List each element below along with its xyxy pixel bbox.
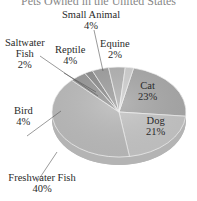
label-cat-pct: 23% <box>138 91 157 102</box>
label-saltwater-fish: Saltwater Fish 2% <box>5 37 45 70</box>
label-freshwater-pct: 40% <box>0 183 84 194</box>
label-reptile: Reptile 4% <box>55 44 85 66</box>
label-small-animal: Small Animal 4% <box>62 9 120 31</box>
label-saltwater-pct: 2% <box>5 59 45 70</box>
label-bird: Bird 4% <box>14 105 33 127</box>
label-dog: Dog 21% <box>146 115 165 137</box>
label-cat: Cat 23% <box>138 80 157 102</box>
label-dog-pct: 21% <box>146 126 165 137</box>
label-saltwater-name-2: Fish <box>5 48 45 59</box>
label-small-animal-pct: 4% <box>62 20 120 31</box>
label-freshwater-name: Freshwater Fish <box>0 172 84 183</box>
label-bird-pct: 4% <box>14 116 33 127</box>
label-equine-pct: 2% <box>100 49 130 60</box>
label-equine: Equine 2% <box>100 38 130 60</box>
label-saltwater-name-1: Saltwater <box>5 37 45 48</box>
label-small-animal-name: Small Animal <box>62 9 120 20</box>
label-equine-name: Equine <box>100 38 130 49</box>
label-reptile-pct: 4% <box>55 55 85 66</box>
label-freshwater-fish: Freshwater Fish 40% <box>0 172 84 194</box>
label-bird-name: Bird <box>14 105 33 116</box>
label-reptile-name: Reptile <box>55 44 85 55</box>
label-cat-name: Cat <box>138 80 157 91</box>
label-dog-name: Dog <box>146 115 165 126</box>
